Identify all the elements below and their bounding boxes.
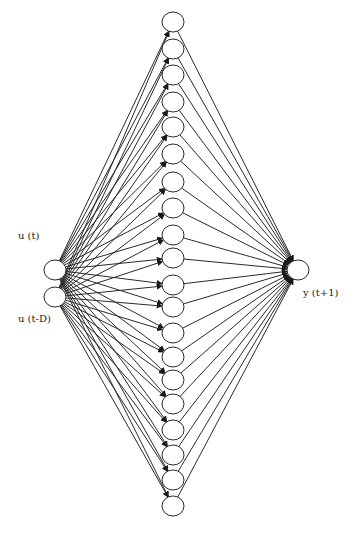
- hidden-node: [162, 65, 184, 85]
- connection-arrow: [60, 111, 167, 288]
- hidden-node: [162, 198, 184, 218]
- connection-arrow: [184, 259, 287, 269]
- connection-arrow: [184, 238, 288, 267]
- connection-arrow: [181, 161, 291, 263]
- output-label: y (t+1): [303, 287, 338, 298]
- hidden-node: [162, 225, 184, 245]
- connection-arrow: [183, 275, 289, 328]
- hidden-node: [162, 117, 184, 137]
- hidden-node: [162, 12, 184, 32]
- connection-arrow: [179, 279, 292, 447]
- hidden-node: [162, 496, 184, 516]
- neural-network-diagram: [0, 0, 360, 534]
- hidden-node: [162, 470, 184, 490]
- hidden-node: [162, 248, 184, 268]
- connection-arrow: [179, 84, 293, 262]
- input-label: u (t-D): [18, 313, 51, 324]
- connection-arrow: [178, 279, 293, 471]
- connection-arrow: [63, 277, 166, 373]
- connection-arrow: [182, 276, 290, 351]
- hidden-to-output-connections: [178, 31, 294, 497]
- connection-arrow: [62, 162, 167, 289]
- hidden-node: [162, 297, 184, 317]
- connection-arrow: [181, 277, 290, 373]
- connection-arrow: [178, 58, 293, 261]
- hidden-node: [162, 370, 184, 390]
- connection-arrow: [180, 278, 291, 397]
- connection-arrow: [63, 189, 166, 289]
- output-node: [287, 260, 309, 280]
- hidden-node: [162, 39, 184, 59]
- connection-arrow: [62, 305, 166, 422]
- input-label: u (t): [18, 230, 39, 241]
- hidden-node: [162, 144, 184, 164]
- connection-arrow: [65, 302, 164, 352]
- hidden-node: [162, 275, 184, 295]
- hidden-node: [162, 92, 184, 112]
- connection-arrow: [59, 58, 168, 288]
- hidden-node: [162, 323, 184, 343]
- input-to-hidden-connections: [59, 31, 169, 497]
- input-node: [44, 260, 66, 280]
- connection-arrow: [59, 31, 169, 287]
- hidden-node: [162, 172, 184, 192]
- hidden-node: [162, 347, 184, 367]
- connection-arrow: [178, 279, 293, 497]
- connection-arrow: [183, 213, 289, 265]
- hidden-node: [162, 420, 184, 440]
- connection-arrow: [60, 84, 168, 288]
- hidden-node: [162, 445, 184, 465]
- hidden-node: [162, 394, 184, 414]
- connection-arrow: [61, 306, 168, 472]
- connection-arrow: [63, 304, 165, 397]
- network-nodes: [44, 12, 309, 516]
- input-node: [44, 287, 66, 307]
- connection-arrow: [66, 286, 162, 296]
